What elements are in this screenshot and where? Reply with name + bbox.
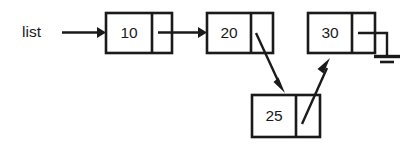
link-node-10-to-node-20-arrowhead bbox=[198, 27, 207, 38]
link-node-25-to-node-30-arrowhead bbox=[318, 58, 331, 74]
node-25-box bbox=[252, 95, 320, 137]
link-head-to-node-10 bbox=[62, 27, 106, 38]
link-head-to-node-10-arrowhead bbox=[97, 27, 106, 38]
node-10-value: 10 bbox=[120, 24, 138, 41]
node-20-value: 20 bbox=[220, 24, 238, 41]
node-25-value: 25 bbox=[265, 107, 282, 124]
linked-list-diagram: list 10 20 bbox=[0, 0, 418, 144]
link-node-20-to-node-25-arrowhead bbox=[274, 78, 286, 94]
list-head-label: list bbox=[22, 23, 42, 40]
diagram-canvas: list 10 20 bbox=[0, 0, 418, 144]
node-30-value: 30 bbox=[321, 24, 339, 41]
node-25: 25 bbox=[252, 95, 320, 137]
